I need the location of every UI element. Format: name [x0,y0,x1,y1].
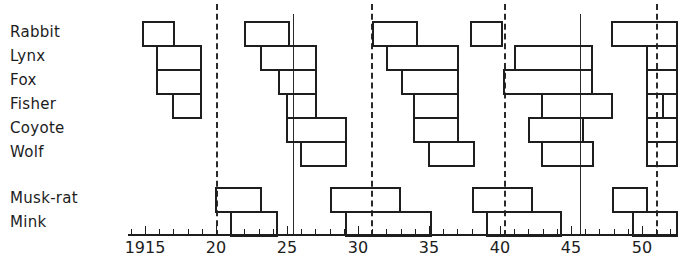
axis-tick [230,229,231,234]
period-box [472,187,533,213]
period-box [286,93,317,119]
row-label: Fisher [10,95,56,113]
axis-tick [372,229,373,234]
axis-tick [287,226,288,234]
period-box [528,117,584,143]
axis-tick [344,229,345,234]
axis-tick [244,229,245,234]
axis-tick [145,226,146,234]
period-box [611,21,678,47]
axis-tick [429,226,430,234]
row-label: Rabbit [10,23,60,41]
period-box [503,69,593,95]
axis-tick [457,229,458,234]
period-box [172,93,202,119]
axis-tick [330,229,331,234]
period-box [142,21,175,47]
period-box [514,45,593,71]
period-box [286,117,347,143]
axis-tick [188,229,189,234]
period-box [260,45,317,71]
axis-tick [543,229,544,234]
axis-tick [614,229,615,234]
axis-tick [259,229,260,234]
row-label: Wolf [10,143,44,161]
axis-tick [472,229,473,234]
axis-tick [301,229,302,234]
cycle-chart: RabbitLynxFoxFisherCoyoteWolfMusk-ratMin… [0,0,688,273]
period-box [470,21,503,47]
period-box [156,45,202,71]
period-box [413,117,459,143]
period-box [646,141,678,167]
period-box [541,141,594,167]
period-box [278,69,317,95]
axis-tick [216,226,217,234]
period-box [300,141,347,167]
axis-tick [500,226,501,234]
axis-tick [173,229,174,234]
axis-tick-label: 45 [561,238,581,257]
axis-tick [557,229,558,234]
period-box [541,93,613,119]
axis-tick [514,229,515,234]
period-box [646,45,678,71]
axis-tick [585,229,586,234]
axis-tick [131,229,132,234]
axis-tick-label: 35 [419,238,439,257]
row-label: Coyote [10,119,65,137]
axis-tick-label: 1915 [125,238,166,257]
row-label: Fox [10,71,37,89]
period-box [330,187,401,213]
axis-tick [358,226,359,234]
row-label: Mink [10,213,47,231]
period-box [401,69,459,95]
period-box [646,69,678,95]
row-label: Lynx [10,47,45,65]
period-box [156,69,202,95]
axis-tick [443,229,444,234]
axis-tick [401,229,402,234]
axis-tick [670,229,671,234]
axis-tick [656,229,657,234]
axis-tick [202,229,203,234]
axis-tick [486,229,487,234]
axis-tick-label: 40 [490,238,510,257]
period-box [215,187,262,213]
axis-line [128,234,676,236]
period-box [413,93,459,119]
axis-tick [528,229,529,234]
period-box [662,93,678,119]
axis-tick [386,229,387,234]
period-box [428,141,475,167]
period-box [244,21,290,47]
axis-tick [415,229,416,234]
period-box [372,21,418,47]
axis-tick [642,226,643,234]
axis-tick [628,229,629,234]
period-box [386,45,459,71]
axis-tick [159,229,160,234]
axis-tick [571,226,572,234]
axis-tick-label: 30 [348,238,368,257]
axis-tick [599,229,600,234]
axis-tick-label: 25 [277,238,297,257]
axis-tick-label: 50 [632,238,652,257]
axis-tick [273,229,274,234]
axis-tick-label: 20 [206,238,226,257]
row-label: Musk-rat [10,189,78,207]
period-box [646,117,678,143]
period-box [612,187,648,213]
axis-tick [315,229,316,234]
